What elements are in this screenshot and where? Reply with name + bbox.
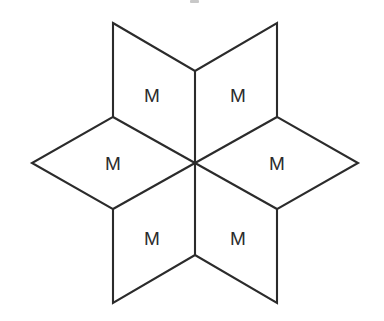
rhombus-label-bottom-left: M	[144, 228, 160, 249]
rhombus-label-top-right: M	[230, 85, 246, 106]
rhombus-label-bottom-right: M	[230, 228, 246, 249]
rhombus-star-rosette-diagram: M M M M M M	[0, 0, 384, 321]
figure-canvas: M M M M M M	[0, 0, 384, 321]
rhombus-label-top-left: M	[144, 85, 160, 106]
rhombus-label-right: M	[269, 153, 285, 174]
rhombus-label-left: M	[105, 153, 121, 174]
page-edge-artifact	[190, 0, 199, 3]
